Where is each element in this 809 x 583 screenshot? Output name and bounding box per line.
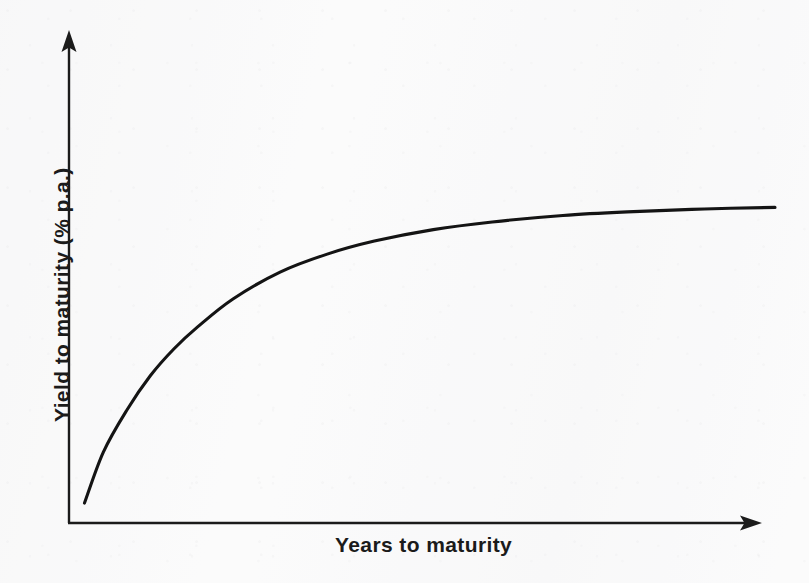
yield-curve-plot bbox=[0, 0, 809, 583]
chart-figure: Yield to maturity (% p.a.) Years to matu… bbox=[0, 0, 809, 583]
x-axis-label: Years to maturity bbox=[335, 533, 512, 557]
yield-curve-line bbox=[85, 207, 776, 503]
y-axis-label: Yield to maturity (% p.a.) bbox=[50, 167, 74, 422]
